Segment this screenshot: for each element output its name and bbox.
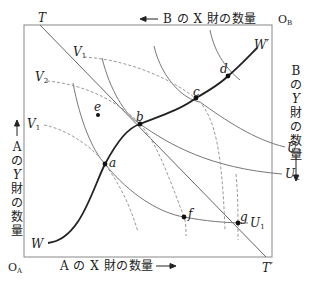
contract-curve [48, 48, 257, 243]
label-point-c: c [193, 86, 200, 98]
axis-title-left: A の Y 財 の 数 量 [10, 140, 24, 238]
label-v1-lower: V1 [27, 118, 40, 134]
label-t-prime: T′ [262, 262, 273, 274]
label-point-a: a [109, 157, 116, 169]
origin-a: OA [8, 262, 22, 277]
indifference-curve-v1-top [84, 57, 225, 230]
label-v1-top: V1 [73, 46, 86, 62]
label-point-b: b [136, 111, 144, 123]
label-point-e: e [94, 101, 101, 113]
point-a [103, 162, 108, 167]
indifference-curve-v2 [47, 81, 186, 236]
axis-title-top: B の X 財の数量 [163, 13, 257, 25]
label-u2: U2 [285, 168, 300, 184]
label-w: W [31, 238, 43, 250]
indifference-curve-v-right [236, 174, 238, 240]
label-u1: U1 [250, 217, 265, 233]
label-point-d: d [220, 63, 228, 75]
edgeworth-box-frame [24, 25, 272, 257]
label-w-prime: W′ [254, 39, 269, 51]
arrow-top-head [140, 17, 146, 22]
arrow-left-head [15, 120, 20, 126]
axis-title-right: B の Y 財 の 数 量 [289, 64, 303, 162]
origin-b: OB [278, 14, 292, 29]
label-t: T [38, 12, 46, 24]
axis-title-bottom: A の X 財の数量 [60, 260, 154, 272]
label-point-g: g [240, 211, 248, 223]
label-v2: V2 [35, 71, 48, 87]
point-f [182, 215, 187, 220]
arrow-bottom-head [170, 264, 176, 269]
label-point-f: f [188, 208, 192, 220]
